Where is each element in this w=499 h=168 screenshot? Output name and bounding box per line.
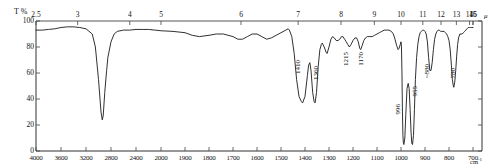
spectrum-trace xyxy=(36,27,473,145)
ir-spectrum-figure: T % μ cm-1 2.534567891011121314151640003… xyxy=(0,0,499,168)
spectrum-canvas xyxy=(0,0,499,168)
